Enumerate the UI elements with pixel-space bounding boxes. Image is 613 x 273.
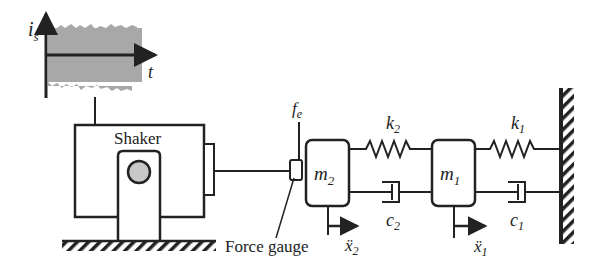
svg-text:k2: k2 bbox=[386, 113, 400, 136]
accel-1-label: ẍ1 bbox=[473, 237, 488, 259]
shaker-label: Shaker bbox=[114, 129, 162, 148]
accel-2-label: ẍ2 bbox=[344, 236, 359, 258]
svg-text:k1: k1 bbox=[511, 113, 525, 136]
svg-text:c2: c2 bbox=[386, 210, 400, 233]
damper-c1 bbox=[475, 182, 560, 202]
signal-x-label: t bbox=[148, 62, 154, 82]
spring-k1 bbox=[475, 141, 560, 157]
two-dof-system-diagram: is t Shaker fe Force gauge m2 ẍ2 k2 c2 m… bbox=[0, 0, 613, 273]
force-gauge bbox=[290, 160, 302, 180]
shaker-armature-disk bbox=[128, 161, 150, 183]
force-label: fe bbox=[292, 99, 303, 121]
svg-text:c1: c1 bbox=[510, 210, 524, 233]
shaker: Shaker bbox=[62, 125, 216, 251]
spring-k2 bbox=[349, 141, 432, 157]
fixed-wall bbox=[562, 88, 574, 244]
excitation-signal-plot: is t bbox=[28, 14, 155, 125]
force-gauge-label: Force gauge bbox=[225, 237, 309, 256]
damper-c2 bbox=[349, 182, 432, 202]
signal-y-label: is bbox=[28, 18, 39, 44]
